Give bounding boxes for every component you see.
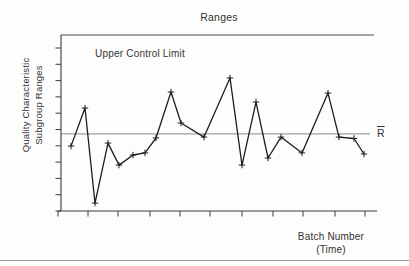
rbar-label: R (377, 127, 385, 139)
upper-control-limit-label: Upper Control Limit (95, 48, 185, 59)
x-axis-label: Batch Number (Time) (271, 231, 391, 256)
x-axis-label-line2: (Time) (271, 244, 391, 257)
control-chart-figure: Ranges Upper Control Limit R Quality Cha… (0, 0, 409, 266)
range-series-line (71, 78, 364, 203)
y-axis-label-line1: Quality Characteristic (19, 25, 32, 185)
x-axis-label-line1: Batch Number (271, 231, 391, 244)
y-axis-label-line2: Subgroup Ranges (32, 25, 45, 185)
chart-canvas (0, 0, 409, 266)
y-axis-label: Quality Characteristic Subgroup Ranges (19, 25, 47, 185)
rbar-text: R (377, 127, 385, 139)
bottom-divider (0, 260, 409, 261)
chart-title: Ranges (61, 11, 377, 23)
